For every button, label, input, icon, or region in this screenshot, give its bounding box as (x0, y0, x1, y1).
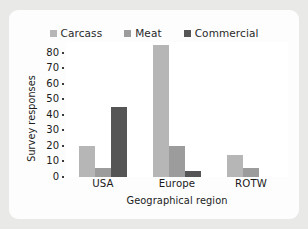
y-axis-tick: 80 (46, 48, 64, 58)
y-axis-tick: 20 (46, 141, 64, 151)
x-axis-title: Geographical region (66, 195, 288, 206)
legend-label: Carcass (61, 28, 103, 39)
bar[interactable] (227, 155, 243, 177)
y-axis-tick-mark (62, 160, 64, 162)
legend-swatch-icon (184, 30, 191, 37)
figure-root: CarcassMeatCommercial Survey responses 0… (0, 0, 308, 229)
legend-swatch-icon (124, 30, 131, 37)
bar[interactable] (243, 168, 259, 177)
y-axis-tick-label: 10 (46, 156, 59, 166)
y-axis-tick-mark (62, 145, 64, 147)
y-axis-tick-label: 30 (46, 125, 59, 135)
y-axis-tick-labels: 01020304050607080 (29, 42, 64, 177)
bar[interactable] (79, 146, 95, 177)
chart-card: CarcassMeatCommercial Survey responses 0… (9, 10, 299, 219)
y-axis-tick-label: 20 (46, 141, 59, 151)
y-axis-tick: 10 (46, 156, 64, 166)
bar[interactable] (169, 146, 185, 177)
y-axis-tick-mark (62, 98, 64, 100)
chart-legend: CarcassMeatCommercial (9, 24, 299, 42)
x-axis-tick-label: USA (92, 179, 113, 189)
y-axis-tick-mark (62, 52, 64, 54)
y-axis-tick: 0 (53, 172, 64, 182)
legend-swatch-icon (50, 30, 57, 37)
x-axis-tick-label: ROTW (235, 179, 267, 189)
y-axis-tick-label: 50 (46, 94, 59, 104)
bars-layer (66, 42, 288, 177)
x-axis-tick-labels: USAEuropeROTW (66, 179, 288, 193)
bar[interactable] (111, 107, 127, 177)
bar[interactable] (185, 171, 201, 177)
legend-label: Meat (135, 28, 161, 39)
legend-item[interactable]: Carcass (50, 28, 103, 39)
legend-label: Commercial (195, 28, 259, 39)
y-axis-tick-label: 40 (46, 110, 59, 120)
bar[interactable] (95, 168, 111, 177)
legend-item[interactable]: Commercial (184, 28, 259, 39)
y-axis-tick: 30 (46, 125, 64, 135)
y-axis-tick-mark (62, 129, 64, 131)
y-axis-tick-mark (62, 176, 64, 178)
y-axis-tick: 40 (46, 110, 64, 120)
x-axis-tick-label: Europe (159, 179, 195, 189)
y-axis-tick-label: 80 (46, 48, 59, 58)
bar[interactable] (153, 45, 169, 177)
plot-area (66, 42, 288, 177)
y-axis-tick-label: 60 (46, 79, 59, 89)
y-axis-tick-mark (62, 114, 64, 116)
y-axis-tick: 60 (46, 79, 64, 89)
legend-item[interactable]: Meat (124, 28, 161, 39)
y-axis-tick-label: 0 (53, 172, 59, 182)
y-axis-tick-mark (62, 67, 64, 69)
y-axis-tick-mark (62, 83, 64, 85)
y-axis-tick-label: 70 (46, 63, 59, 73)
y-axis-tick: 50 (46, 94, 64, 104)
y-axis-tick: 70 (46, 63, 64, 73)
